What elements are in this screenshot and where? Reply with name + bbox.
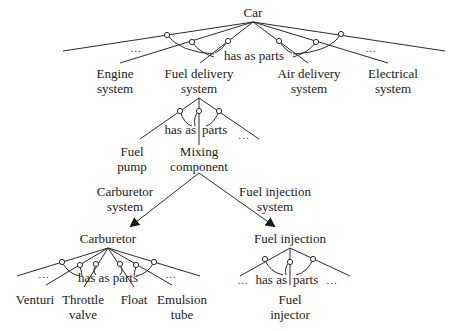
carburetor-system-edge-label-1: Carburetor [97,184,154,199]
ellipsis-right: ... [165,268,176,280]
node-fuel-injection: Fuel injection [254,231,326,246]
node-fuel-pump: Fuel pump [117,144,147,174]
relation-node-icon [338,31,343,36]
fuel-delivery-part-links: has as parts ... [140,98,259,145]
fuel-pump-label-2: pump [117,159,147,174]
relation-node-icon [164,32,169,37]
fuel-delivery-label-2: system [181,81,217,96]
emulsion-tube-label-1: Emulsion [157,292,207,307]
relation-node-icon [313,39,318,44]
ellipsis-left: ... [130,42,141,54]
fuel-injection-part-links: has as parts ... ... [237,248,350,287]
engine-system-label-1: Engine [97,66,134,81]
node-engine-system: Engine system [97,66,134,96]
relation-node-icon [59,259,64,264]
relation-node-icon [276,38,281,43]
relation-node-icon [93,261,98,266]
diagram-canvas: Car has as parts ... ... Engine system F… [0,0,457,331]
fuel-injection-system-edge-label-1: Fuel injection [239,184,311,199]
fuel-delivery-label-1: Fuel delivery [165,66,234,81]
throttle-valve-label-2: valve [69,307,97,322]
node-electrical-system: Electrical system [368,66,418,96]
carburetor-part-links: has as parts ... ... [17,248,200,287]
car-part-links: has as parts ... ... [63,22,445,63]
relation-label-carburetor: has as parts [78,270,138,285]
ellipsis-left: ... [38,268,49,280]
fuel-injection-label: Fuel injection [254,231,326,246]
node-emulsion-tube: Emulsion tube [157,292,207,322]
throttle-valve-label-1: Throttle [62,292,104,307]
link-car-ellipsis-right [253,22,445,51]
electrical-label-2: system [375,81,411,96]
relation-node-icon [216,108,221,113]
node-fuel-delivery-system: Fuel delivery system [165,66,234,96]
relation-node-icon [133,262,138,267]
node-fuel-injector: Fuel injector [270,292,310,322]
ellipsis-right: ... [365,42,376,54]
ellipsis-right: ... [326,274,337,286]
node-air-delivery-system: Air delivery system [277,66,341,96]
ellipsis: ... [238,129,249,141]
node-car: Car [244,5,263,20]
relation-node-icon [287,259,292,264]
link-car-ellipsis-left [63,22,253,51]
node-venturi: Venturi [16,292,55,307]
emulsion-tube-label-2: tube [171,307,194,322]
node-float: Float [121,292,148,307]
car-label: Car [244,5,263,20]
fuel-injection-system-edge-label-2: system [257,199,293,214]
relation-node-icon [189,39,194,44]
relation-label-car: has as parts [224,48,284,63]
air-delivery-label-2: system [291,81,327,96]
carburetor-system-edge-label-2: system [107,199,143,214]
float-label: Float [121,292,148,307]
relation-label-right: parts [202,122,227,137]
fuel-injector-label-1: Fuel [278,292,302,307]
carburetor-label: Carburetor [80,231,137,246]
mixing-component-label-1: Mixing [180,144,219,159]
relation-node-icon [196,108,201,113]
mixing-component-label-2: component [170,159,228,174]
electrical-label-1: Electrical [368,66,418,81]
relation-node-icon [262,256,267,261]
relation-node-icon [177,108,182,113]
engine-system-label-2: system [97,81,133,96]
fuel-pump-label-1: Fuel [120,144,144,159]
node-mixing-component: Mixing component [170,144,228,174]
relation-label-left: has as [256,272,287,287]
part-of-hierarchy-diagram: Car has as parts ... ... Engine system F… [0,0,457,331]
fuel-injector-label-2: injector [270,307,310,322]
relation-label-right: parts [293,272,318,287]
venturi-label: Venturi [16,292,55,307]
relation-node-icon [225,38,230,43]
relation-node-icon [117,261,122,266]
relation-node-icon [77,262,82,267]
mixing-variant-links: Carburetor system Fuel injection system [97,173,312,226]
relation-node-icon [310,256,315,261]
air-delivery-label-1: Air delivery [277,66,341,81]
ellipsis-left: ... [237,274,248,286]
relation-label-left: has as [165,122,196,137]
node-carburetor: Carburetor [80,231,137,246]
relation-node-icon [151,259,156,264]
node-throttle-valve: Throttle valve [62,292,104,322]
